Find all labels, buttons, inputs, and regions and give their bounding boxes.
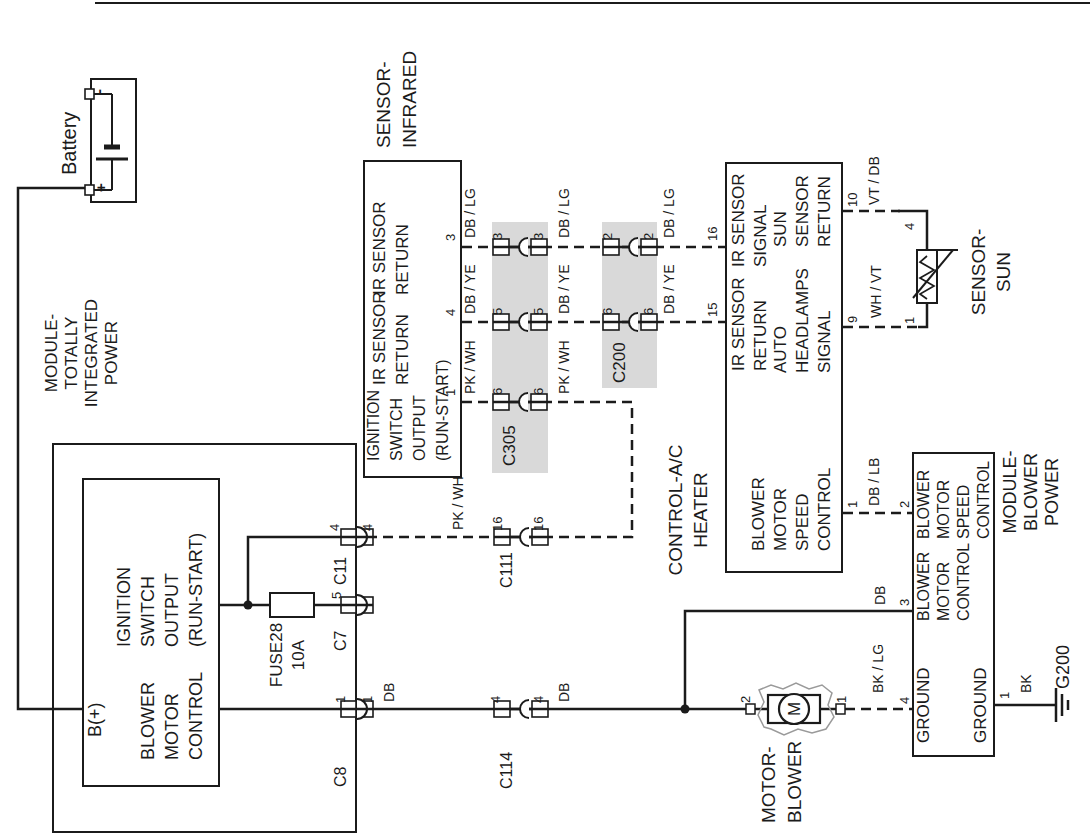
motor-m-label: M: [785, 702, 804, 716]
wire-color: DB / YE: [556, 264, 573, 314]
pin-number: 5: [329, 592, 345, 599]
pin-number: 1: [333, 696, 349, 703]
wire-color: DB: [381, 683, 398, 702]
pin-number: 2: [600, 233, 616, 240]
pin-number: 4: [443, 309, 459, 316]
module-blower-control-label: BLOWERMOTORCONTROL: [914, 543, 974, 621]
wire-color: DB / LG: [661, 188, 678, 238]
connector-name: C200: [610, 342, 630, 383]
pin-number: 4: [897, 697, 913, 704]
pin-number: 4: [360, 524, 376, 531]
sun-sensor-symbol: [913, 250, 958, 303]
tipm-ignition-output-label: IGNITIONSWITCHOUTPUT(RUN-START): [112, 533, 208, 647]
battery-polarity-sign: -: [90, 89, 107, 94]
sun-sensor-title: SENSOR-SUN: [966, 229, 1016, 316]
pin-number: 1: [834, 696, 850, 703]
pin-number: 4: [488, 696, 504, 703]
pin-number: 4: [902, 223, 918, 230]
motor-terminal: [836, 704, 845, 714]
wire-color: PK / WH: [450, 476, 467, 530]
tipm-b-plus-label: B(+): [84, 702, 106, 737]
motor-terminal: [746, 704, 755, 714]
pin-number: 1: [997, 692, 1013, 699]
wire-junction: [244, 601, 253, 610]
tipm-blower-control-label: BLOWERMOTORCONTROL: [136, 672, 208, 760]
pin-number: 16: [705, 227, 721, 241]
blower-motor-symbol: M: [746, 683, 845, 735]
battery-label: Battery: [57, 112, 81, 175]
pin-number: 3: [443, 234, 459, 241]
pin-number: 2: [738, 696, 754, 703]
pin-number: 3: [490, 233, 506, 240]
connector-name: C11: [331, 557, 350, 585]
pin-number: 2: [897, 501, 913, 508]
wire-color: BK: [1018, 674, 1035, 693]
pin-number: 6: [600, 308, 616, 315]
pin-number: 3: [897, 599, 913, 606]
heater-ir-return-label: IR SENSORRETURN: [728, 277, 772, 371]
wire-color: DB: [556, 683, 573, 702]
module-ground-label-bottom: GROUND: [971, 667, 991, 743]
wire-color: PK / WH: [462, 340, 479, 394]
pin-number: 1: [845, 501, 861, 508]
connector-name: C8: [331, 767, 350, 787]
module-ground-label-top: GROUND: [914, 667, 934, 743]
wire-color: DB / YE: [661, 264, 678, 314]
connector-name: C111: [497, 552, 516, 588]
heater-ir-signal-label: IR SENSORSIGNAL: [728, 173, 772, 267]
pin-number: 6: [641, 308, 657, 315]
pin-number: 15: [705, 303, 721, 317]
wire-color: DB / LG: [556, 188, 573, 238]
battery-b-plus-wire: [18, 188, 85, 709]
ir-return-label-2: IR SENSORRETURN: [368, 201, 414, 295]
connector-name: C7: [331, 631, 350, 651]
pin-number: 4: [327, 524, 343, 531]
tipm-pin-c7: [341, 595, 373, 615]
pin-number: 6: [490, 388, 506, 395]
wire-junction: [681, 705, 690, 714]
connector-name: C305: [500, 425, 520, 466]
sun-sensor-left-lead: [918, 303, 927, 327]
tipm-title: MODULE-TOTALLYINTEGRATEDPOWER: [42, 299, 122, 407]
pin-number: 9: [845, 316, 861, 323]
pin-number: 1: [360, 696, 376, 703]
pin-number: 16: [490, 517, 506, 531]
heater-title: CONTROL-A/CHEATER: [663, 445, 713, 576]
rotated-schematic-canvas: MBatteryMODULE-TOTALLYINTEGRATEDPOWERB(+…: [0, 0, 1090, 835]
wire-color: DB / LB: [866, 458, 883, 506]
pin-number: 16: [531, 517, 547, 531]
ir-sensor-title: SENSOR-INFRARED: [371, 51, 423, 148]
motor-title: MOTOR-BLOWER: [756, 741, 808, 823]
pin-number: 4: [531, 696, 547, 703]
fuse28-symbol: [270, 593, 314, 617]
ground-name: G200: [1053, 645, 1074, 689]
pin-number: 6: [531, 388, 547, 395]
wire-color: WH / VT: [868, 265, 885, 318]
pin-number: 2: [641, 233, 657, 240]
heater-blower-speed-label: BLOWERMOTORSPEEDCONTROL: [748, 468, 836, 551]
connector-name: C114: [497, 752, 516, 789]
wiring-diagram-page: MBatteryMODULE-TOTALLYINTEGRATEDPOWERB(+…: [0, 0, 1090, 835]
heater-sun-return-label: SUNSENSORRETURN: [770, 175, 836, 247]
pin-number: 5: [490, 308, 506, 315]
wire-color: DB / LG: [462, 188, 479, 238]
wire-color: BK / LG: [870, 644, 887, 693]
pin-number: 10: [845, 193, 861, 207]
module-title: MODULE-BLOWERPOWER: [1000, 450, 1063, 533]
heater-auto-headlamps-label: AUTOHEADLAMPSSIGNAL: [770, 268, 836, 373]
wire-color: DB: [872, 586, 889, 605]
battery-symbol: [85, 89, 128, 195]
g200-ground-symbol: [1056, 688, 1068, 722]
pin-number: 1: [902, 317, 918, 324]
pin-number: 5: [531, 308, 547, 315]
ir-return-label-1: IR SENSORRETURN: [368, 291, 414, 385]
pin-number: 3: [531, 233, 547, 240]
module-blower-speed-label: BLOWERMOTORSPEEDCONTROL: [914, 461, 994, 539]
pin-number: 1: [443, 389, 459, 396]
wire-color: VT / DB: [866, 156, 883, 205]
wire-color: DB / YE: [462, 264, 479, 314]
wire-color: PK / WH: [556, 340, 573, 394]
fuse28-label: FUSE2810A: [266, 623, 310, 687]
sun-sensor-right-lead: [898, 211, 927, 250]
battery-polarity-sign: +: [92, 183, 109, 192]
